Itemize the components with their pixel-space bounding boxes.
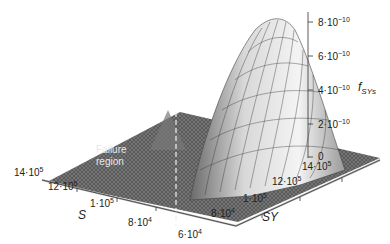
z-tick-8: 8·10−10 (318, 16, 350, 28)
sy-tick-8e4: 8·104 (211, 207, 235, 219)
s-tick-6e4: 6·104 (178, 228, 202, 240)
sy-axis-title: SY (262, 210, 278, 224)
s-tick-8e4: 8·104 (128, 216, 152, 228)
s-tick-1e5: 1·105 (90, 197, 114, 209)
z-tick-2: 2·10−10 (318, 118, 350, 130)
s-tick-14e5: 14·105 (14, 166, 43, 178)
failure-region-annotation: Failure region (96, 144, 127, 168)
peak-surface (190, 19, 345, 200)
s-axis-title: S (78, 208, 86, 222)
sy-tick-12e5: 12·105 (272, 175, 301, 187)
z-tick-4: 4·10−10 (318, 84, 350, 96)
sy-tick-14e5: 14·105 (302, 160, 331, 172)
s-tick-12e5: 12·105 (48, 180, 77, 192)
sy-tick-1e5: 1·105 (243, 192, 267, 204)
z-tick-6: 6·10−10 (318, 50, 350, 62)
z-axis-title: fSYs (358, 80, 376, 96)
